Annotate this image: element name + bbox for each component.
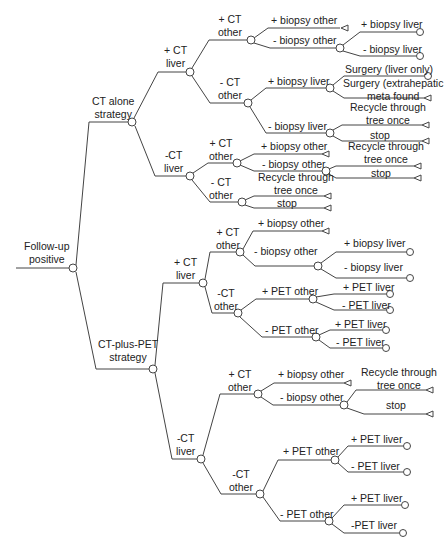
chance-node-root <box>69 264 77 272</box>
label-p2b2-neg-pet-liver: -PET liver <box>351 519 397 532</box>
label-line: liver <box>176 445 195 458</box>
label-a1a-neg-biopsy-liver: - biopsy liver <box>363 43 422 56</box>
label-a2b-recycle: Recycle through tree once <box>258 171 334 197</box>
label-line: other <box>216 239 240 252</box>
label-line: tree once <box>348 153 424 166</box>
label-p2a-stop: stop <box>386 399 406 412</box>
label-p1b-pos-pet-liver: + PET liver <box>343 281 394 294</box>
label-line: Recycle through <box>348 140 424 153</box>
label-a1a-neg-biopsy-other: - biopsy other <box>273 34 337 47</box>
label-p1-pos-ct-other: + CT other <box>216 226 240 252</box>
label-a1a-pos-biopsy-other: + biopsy other <box>271 14 337 27</box>
label-line: Recycle through <box>258 171 334 184</box>
label-line: other <box>229 481 253 494</box>
label-line: -CT <box>176 432 195 445</box>
label-line: -CT <box>214 287 238 300</box>
label-a2a-pos-biopsy-other: + biopsy other <box>261 140 327 153</box>
label-line: tree once <box>350 114 426 127</box>
label-line: + CT <box>164 44 187 57</box>
label-ct-alone-strategy: CT alone strategy <box>92 95 134 121</box>
label-line: + CT <box>216 226 240 239</box>
label-surgery-extrahepatic: Surgery (extrahepatic meta found <box>343 77 443 103</box>
label-p1-neg-ct-other: -CT other <box>214 287 238 313</box>
label-a2a-neg-biopsy-other: - biopsy other <box>262 158 326 171</box>
label-line: - CT <box>218 76 242 89</box>
label-p1b-neg-pet-other: - PET other <box>265 324 319 337</box>
label-ct-plus-pet-strategy: CT-plus-PET strategy <box>98 338 158 364</box>
label-a-pos-ct-liver: + CT liver <box>164 44 187 70</box>
label-line: other <box>218 89 242 102</box>
label-line: other <box>218 26 242 39</box>
label-p2a-pos-biopsy-other: + biopsy other <box>278 368 344 381</box>
label-p2-neg-ct-other: -CT other <box>229 468 253 494</box>
label-line: tree once <box>361 379 437 392</box>
label-line: -CT <box>229 468 253 481</box>
label-p1a-neg-biopsy-liver: - biopsy liver <box>344 261 403 274</box>
label-p2b-pos-pet-liver: + PET liver <box>351 433 402 446</box>
label-line: other <box>214 300 238 313</box>
label-a2a-recycle: Recycle through tree once <box>348 140 424 166</box>
label-p1b2-neg-pet-liver: - PET liver <box>336 336 385 349</box>
label-line: tree once <box>258 184 334 197</box>
label-follow-up-positive: Follow-up positive <box>24 240 70 266</box>
label-p2b2-pos-pet-liver: + PET liver <box>351 492 402 505</box>
label-line: liver <box>174 269 197 282</box>
label-surgery-liver-only: Surgery (liver only) <box>345 63 433 76</box>
label-line: + CT <box>209 137 233 150</box>
label-p1a-pos-biopsy-other: + biopsy other <box>258 217 324 230</box>
label-p1a-neg-biopsy-other: - biopsy other <box>254 245 318 258</box>
label-line: + CT <box>174 256 197 269</box>
label-p2b-neg-pet-other: - PET other <box>280 508 334 521</box>
label-p2b-pos-pet-other: + PET other <box>283 445 339 458</box>
label-line: strategy <box>92 108 134 121</box>
label-line: + CT <box>218 13 242 26</box>
label-line: other <box>209 150 233 163</box>
label-line: liver <box>164 162 183 175</box>
label-line: Recycle through <box>361 366 437 379</box>
label-a1b-pos-biopsy-liver: + biopsy liver <box>268 75 330 88</box>
label-line: CT alone <box>92 95 134 108</box>
label-p1b-pos-pet-other: + PET other <box>262 285 318 298</box>
label-p-neg-ct-liver: -CT liver <box>176 432 195 458</box>
label-a2b-stop: stop <box>277 197 297 210</box>
label-p2a-recycle: Recycle through tree once <box>361 366 437 392</box>
label-line: strategy <box>98 351 158 364</box>
label-line: + CT <box>228 368 252 381</box>
label-a1b-neg-biopsy-liver: - biopsy liver <box>268 120 327 133</box>
decision-tree-diagram: Follow-up positive CT alone strategy + C… <box>0 0 445 549</box>
label-a1-neg-ct-other: - CT other <box>218 76 242 102</box>
label-p1b2-pos-pet-liver: + PET liver <box>335 318 386 331</box>
label-line: liver <box>164 57 187 70</box>
label-line: positive <box>24 253 70 266</box>
label-a1a-pos-biopsy-liver: + biopsy liver <box>361 18 423 31</box>
label-a1-pos-ct-other: + CT other <box>218 13 242 39</box>
label-line: Recycle through <box>350 101 426 114</box>
label-a-neg-ct-liver: -CT liver <box>164 149 183 175</box>
label-a1b-recycle: Recycle through tree once <box>350 101 426 127</box>
label-line: - CT <box>209 176 233 189</box>
label-line: Follow-up <box>24 240 70 253</box>
label-p-pos-ct-liver: + CT liver <box>174 256 197 282</box>
label-line: other <box>228 381 252 394</box>
label-a2-pos-ct-other: + CT other <box>209 137 233 163</box>
label-p2-pos-ct-other: + CT other <box>228 368 252 394</box>
label-p2b-neg-pet-liver: - PET liver <box>351 460 400 473</box>
label-a2-neg-ct-other: - CT other <box>209 176 233 202</box>
label-line: CT-plus-PET <box>98 338 158 351</box>
label-p1b-neg-pet-liver: - PET liver <box>342 299 391 312</box>
label-p2a-neg-biopsy-other: - biopsy other <box>280 391 344 404</box>
label-line: other <box>209 189 233 202</box>
label-line: -CT <box>164 149 183 162</box>
label-p1a-pos-biopsy-liver: + biopsy liver <box>344 237 406 250</box>
label-line: Surgery (extrahepatic <box>343 77 443 90</box>
label-a2a-stop: stop <box>371 167 391 180</box>
